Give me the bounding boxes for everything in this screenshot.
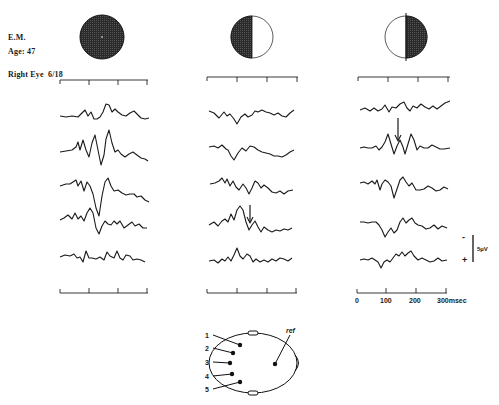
electrode-1-label: 1 xyxy=(205,332,209,339)
electrode-head-diagram xyxy=(209,331,299,395)
scale-negative-sign: - xyxy=(462,232,465,242)
scale-positive-sign: + xyxy=(462,255,467,265)
vep-figure: - + 5µV 0 100 200 300msec xyxy=(0,0,499,405)
waveforms-full-field xyxy=(60,104,149,262)
stimulus-right-half-icon xyxy=(385,13,427,61)
electrode-4-label: 4 xyxy=(205,373,209,380)
waveforms-left-half-field xyxy=(209,110,294,263)
waveforms-right-half-field xyxy=(360,101,450,268)
reference-label: ref xyxy=(286,327,296,334)
tick-300: 300msec xyxy=(437,297,467,304)
scale-label: 5µV xyxy=(477,246,488,252)
bottom-time-axes xyxy=(60,288,447,293)
electrode-2-label: 2 xyxy=(205,345,209,352)
electrode-5-label: 5 xyxy=(205,386,209,393)
tick-100: 100 xyxy=(380,297,392,304)
top-time-axes xyxy=(60,77,450,85)
electrode-3-label: 3 xyxy=(205,359,209,366)
tick-0: 0 xyxy=(355,297,359,304)
stimulus-full-field-icon xyxy=(80,15,124,59)
tick-200: 200 xyxy=(409,297,421,304)
time-axis-labels: 0 100 200 300msec xyxy=(355,297,467,304)
amplitude-scale-bar: - + 5µV xyxy=(462,232,488,265)
stimulus-left-half-icon xyxy=(231,16,273,58)
